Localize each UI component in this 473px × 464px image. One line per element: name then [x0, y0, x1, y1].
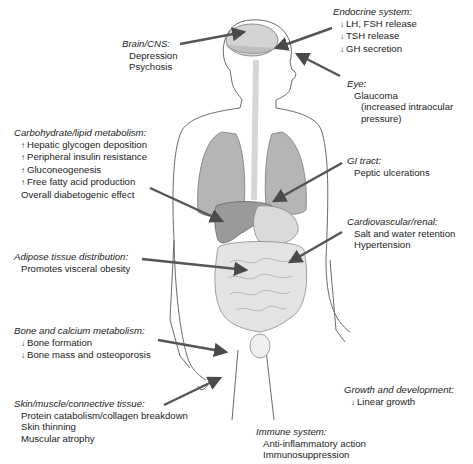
label-item: Muscular atrophy — [14, 433, 188, 445]
label-item: Psychosis — [122, 61, 178, 73]
label-carbohydrate-lipid-metabolism: Carbohydrate/lipid metabolism: ↑Hepatic … — [14, 127, 147, 201]
label-title: Endocrine system: — [333, 6, 417, 18]
label-item: Hypertension — [347, 239, 455, 251]
label-title: Adipose tissue distribution: — [14, 251, 130, 263]
label-title: Carbohydrate/lipid metabolism: — [14, 127, 147, 139]
label-item: ↓Linear growth — [344, 396, 454, 409]
label-title: Immune system: — [256, 426, 366, 438]
right-lung-organ — [265, 132, 306, 214]
label-gi-tract: GI tract: Peptic ulcerations — [347, 155, 430, 178]
label-item: Protein catabolism/collagen breakdown — [14, 410, 188, 422]
label-item: ↓Bone formation — [14, 337, 151, 350]
label-item: ↓GH secretion — [333, 43, 417, 56]
label-skin-muscle-connective: Skin/muscle/connective tissue: Protein c… — [14, 398, 188, 444]
label-item: Overall diabetogenic effect — [14, 189, 147, 201]
label-brain-cns: Brain/CNS: Depression Psychosis — [122, 38, 178, 73]
label-immune-system: Immune system: Anti-inflammatory action … — [256, 426, 366, 461]
decrease-arrow-icon: ↓ — [351, 398, 355, 407]
label-item: (increased intraocular — [347, 101, 453, 113]
label-item: Depression — [122, 50, 178, 62]
increase-arrow-icon: ↑ — [21, 178, 25, 187]
decrease-arrow-icon: ↓ — [21, 351, 25, 360]
label-title: Skin/muscle/connective tissue: — [14, 398, 188, 410]
label-title: Brain/CNS: — [122, 38, 178, 50]
decrease-arrow-icon: ↓ — [340, 45, 344, 54]
label-item: ↑Peripheral insulin resistance — [14, 151, 147, 164]
label-title: Eye: — [347, 78, 453, 90]
label-item: ↓Bone mass and osteoporosis — [14, 349, 151, 362]
label-item: Salt and water retention — [347, 228, 455, 240]
label-item: Promotes visceral obesity — [14, 263, 130, 275]
label-item: Peptic ulcerations — [347, 167, 430, 179]
increase-arrow-icon: ↑ — [21, 153, 25, 162]
label-item: ↑Free fatty acid production — [14, 176, 147, 189]
label-item: Immunosuppression — [256, 449, 366, 461]
label-item: Glaucoma — [347, 90, 453, 102]
label-item: ↓LH, FSH release — [333, 18, 417, 31]
label-cardiovascular-renal: Cardiovascular/renal: Salt and water ret… — [347, 216, 455, 251]
label-adipose-tissue: Adipose tissue distribution: Promotes vi… — [14, 251, 130, 274]
label-item: Skin thinning — [14, 421, 188, 433]
increase-arrow-icon: ↑ — [21, 166, 25, 175]
label-item: ↑Hepatic glycogen deposition — [14, 139, 147, 152]
label-bone-calcium-metabolism: Bone and calcium metabolism: ↓Bone forma… — [14, 325, 151, 362]
label-item: Anti-inflammatory action — [256, 438, 366, 450]
intestines-organ — [215, 242, 307, 333]
label-item: ↑Gluconeogenesis — [14, 164, 147, 177]
label-item: pressure) — [347, 113, 453, 125]
decrease-arrow-icon: ↓ — [21, 339, 25, 348]
label-title: Bone and calcium metabolism: — [14, 325, 151, 337]
decrease-arrow-icon: ↓ — [340, 32, 344, 41]
decrease-arrow-icon: ↓ — [340, 20, 344, 29]
label-growth-development: Growth and development: ↓Linear growth — [344, 384, 454, 408]
label-title: GI tract: — [347, 155, 430, 167]
label-endocrine-system: Endocrine system: ↓LH, FSH release ↓TSH … — [333, 6, 417, 55]
increase-arrow-icon: ↑ — [21, 141, 25, 150]
label-title: Growth and development: — [344, 384, 454, 396]
label-title: Cardiovascular/renal: — [347, 216, 455, 228]
label-item: ↓TSH release — [333, 30, 417, 43]
label-eye: Eye: Glaucoma (increased intraocular pre… — [347, 78, 453, 124]
